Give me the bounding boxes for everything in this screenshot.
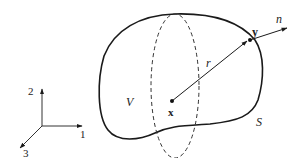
- axis-3-arrow: [20, 126, 42, 148]
- distance-label-r: r: [206, 56, 211, 70]
- surface-boundary: [99, 14, 262, 139]
- axis-1-label: 1: [80, 128, 86, 140]
- surface-label-S: S: [256, 115, 262, 129]
- normal-label-n: n: [276, 12, 282, 26]
- axis-3-label: 3: [23, 147, 29, 158]
- axis-2-label: 2: [28, 85, 34, 97]
- point-label-x: x: [168, 106, 174, 118]
- diagram-canvas: 2 1 3 V S x y r n: [0, 0, 299, 158]
- region-label-V: V: [126, 95, 135, 109]
- point-label-y: y: [252, 25, 258, 39]
- point-x: [170, 99, 174, 103]
- distance-vector-r: [172, 41, 247, 101]
- coordinate-axes: [20, 89, 82, 148]
- cross-section-ellipse: [151, 14, 199, 158]
